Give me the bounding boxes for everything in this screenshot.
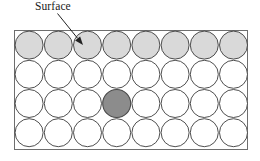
atom-circle (15, 90, 43, 118)
atom-circle (74, 60, 102, 88)
atom-circle (190, 119, 218, 147)
surface-atom-circle (190, 31, 218, 59)
surface-atom-circle (132, 31, 160, 59)
atom-circle (74, 119, 102, 147)
atom-circle (44, 60, 72, 88)
atom-circle (220, 60, 248, 88)
surface-atom-circle (15, 31, 43, 59)
atom-circle (132, 90, 160, 118)
surface-lattice-diagram: Surface (0, 0, 260, 161)
surface-atom-circle (44, 31, 72, 59)
surface-atom-circle (161, 31, 189, 59)
surface-atom-circle (220, 31, 248, 59)
atom-circle (220, 90, 248, 118)
atom-circle (190, 90, 218, 118)
atom-circle (44, 119, 72, 147)
impurity-atom (103, 90, 131, 118)
atom-circle (103, 60, 131, 88)
surface-atom-circle (74, 31, 102, 59)
atom-circle (44, 90, 72, 118)
atom-circle (103, 119, 131, 147)
atom-circle (132, 60, 160, 88)
atom-circle (161, 90, 189, 118)
atom-circle (161, 60, 189, 88)
atom-circle (161, 119, 189, 147)
atom-circle (190, 60, 218, 88)
lattice-drawing (0, 0, 260, 161)
atom-circle (74, 90, 102, 118)
atom-circle (15, 119, 43, 147)
atom-circle (132, 119, 160, 147)
surface-atom-circle (103, 31, 131, 59)
atom-circle (220, 119, 248, 147)
atom-circle (15, 60, 43, 88)
